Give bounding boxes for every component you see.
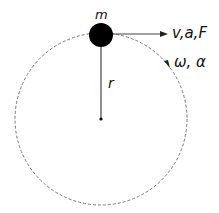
mass-ball (89, 23, 113, 47)
radius-label: r (108, 76, 114, 90)
angular-label: ω, α (174, 55, 206, 70)
rotation-arrowhead-icon (164, 60, 170, 68)
center-point (99, 117, 102, 120)
mass-label: m (95, 8, 108, 21)
tangent-arrowhead-icon (160, 31, 168, 37)
vector-label: v,a,F (172, 26, 207, 41)
